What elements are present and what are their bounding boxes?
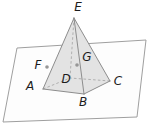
label-E: E bbox=[74, 0, 82, 14]
point-F-dot bbox=[45, 65, 49, 69]
label-A: A bbox=[25, 79, 34, 93]
pyramid-on-plane-diagram: EABCDFG bbox=[0, 0, 149, 130]
label-D: D bbox=[61, 72, 70, 86]
label-G: G bbox=[82, 50, 91, 64]
label-C: C bbox=[114, 74, 123, 88]
point-G-dot bbox=[75, 63, 79, 67]
label-F: F bbox=[35, 58, 43, 72]
geometry-figure: EABCDFG bbox=[0, 0, 149, 130]
label-B: B bbox=[79, 95, 87, 109]
